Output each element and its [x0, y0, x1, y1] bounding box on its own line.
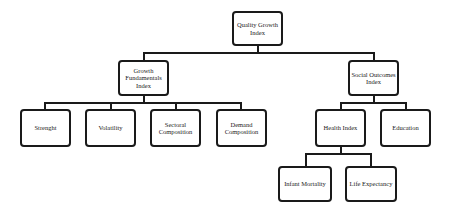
- node-label: Quality Growth Index: [235, 21, 280, 36]
- node-label: Volatility: [98, 124, 122, 132]
- connector-health-bar: [305, 153, 372, 155]
- node-label: Strenght: [34, 124, 56, 132]
- node-volatility: Volatility: [85, 109, 136, 147]
- node-label: Social Outcomes Index: [351, 71, 396, 86]
- node-label: Health Index: [324, 124, 358, 132]
- node-label: Growth Fundamentals Index: [121, 67, 166, 90]
- node-label: Life Expectancy: [350, 180, 393, 188]
- node-education: Education: [380, 109, 431, 147]
- node-quality-growth-index: Quality Growth Index: [232, 11, 283, 46]
- connector-to-life: [370, 153, 372, 167]
- node-label: Education: [392, 124, 418, 132]
- connector-growth-bar: [44, 102, 242, 104]
- node-health-index: Health Index: [315, 109, 366, 147]
- node-demand-composition: Demand Composition: [216, 109, 267, 147]
- connector-to-infant: [305, 153, 307, 167]
- node-growth-fundamentals-index: Growth Fundamentals Index: [118, 60, 169, 96]
- node-sectoral-composition: Sectoral Composition: [150, 109, 201, 147]
- node-social-outcomes-index: Social Outcomes Index: [348, 60, 399, 96]
- node-life-expectancy: Life Expectancy: [345, 166, 397, 202]
- node-strenght: Strenght: [20, 109, 71, 147]
- node-infant-mortality: Infant Mortality: [278, 166, 332, 202]
- node-label: Sectoral Composition: [153, 121, 198, 136]
- connector-social-bar: [340, 102, 407, 104]
- connector-level1-bar: [143, 52, 375, 54]
- node-label: Infant Mortality: [284, 180, 326, 188]
- node-label: Demand Composition: [219, 121, 264, 136]
